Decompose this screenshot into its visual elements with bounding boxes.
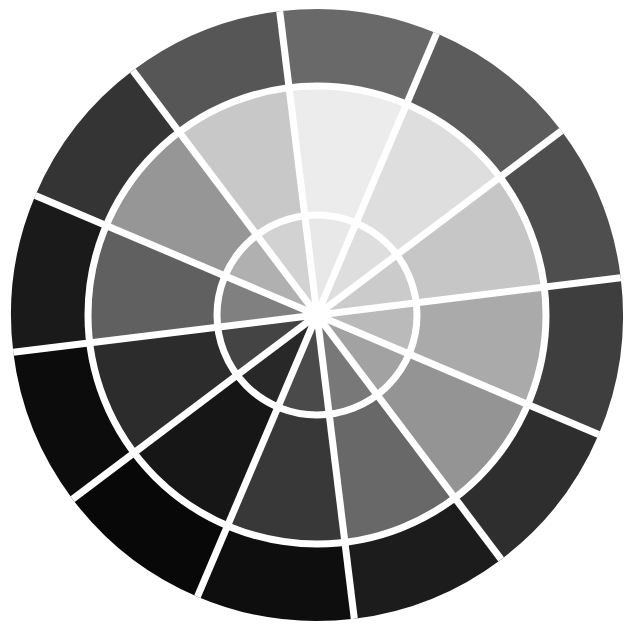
center-hub: [304, 302, 330, 328]
value-wheel-canvas: [0, 0, 634, 632]
value-wheel-svg: [0, 0, 634, 632]
